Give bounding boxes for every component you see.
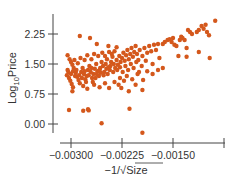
data-point [101,73,105,77]
data-point [144,59,148,63]
data-point [89,57,93,61]
data-point [92,52,96,56]
data-point [106,72,110,76]
data-point [87,73,91,77]
data-point [65,53,69,57]
data-point [78,81,82,85]
data-point [118,65,122,69]
data-point [174,44,178,48]
data-point [70,89,74,93]
data-point [147,44,151,48]
data-point [127,89,131,93]
data-point [92,83,96,87]
data-point [87,108,91,112]
data-point [121,70,125,74]
data-point [99,60,103,64]
data-point [93,76,97,80]
data-point [154,48,158,52]
data-point [73,74,77,78]
scatter-plot: 0.000.751.502.25 −0.00300−0.00225−0.0015… [0,0,237,186]
data-point [135,52,139,56]
data-point [97,85,101,89]
data-point [114,45,118,49]
data-point [84,80,88,84]
data-point [118,60,122,64]
x-tick-label: −0.00225 [100,149,144,161]
y-tick-label: 0.75 [25,88,46,100]
data-point [82,58,86,62]
data-point [78,56,82,60]
data-point [131,66,135,70]
data-point [149,49,153,53]
data-point [99,121,103,125]
y-tick-label: 0.00 [25,118,46,130]
data-point [103,81,107,85]
data-point [122,79,126,83]
data-point [203,23,207,27]
data-point [126,68,130,72]
data-point [108,64,112,68]
x-ticks: −0.00300−0.00225−0.00150 [49,138,224,161]
data-point [112,80,116,84]
data-point [197,50,201,54]
data-point [94,62,98,66]
data-point [141,78,145,82]
data-point [171,36,175,40]
x-axis-title: −1/√Size [104,164,147,176]
data-point [182,38,186,42]
data-point [124,53,128,57]
data-point [107,86,111,90]
data-point [72,58,76,62]
data-point [127,57,131,61]
data-point [119,86,123,90]
data-point [88,36,92,40]
data-point [104,67,108,71]
data-point [190,32,194,36]
data-point [133,83,137,87]
data-point [118,76,122,80]
data-point [140,54,144,58]
data-point [201,27,205,31]
data-point [112,49,116,53]
data-point [85,53,89,57]
data-point [150,72,154,76]
data-point [145,69,149,73]
data-point [127,107,131,111]
data-point [95,42,99,46]
data-point [78,34,82,38]
data-point [82,69,86,73]
data-point [176,54,180,58]
data-point [74,68,78,72]
points-layer [65,19,218,135]
data-point [81,109,85,113]
data-point [123,59,127,63]
data-point [184,55,188,59]
y-tick-label: 1.50 [25,58,46,70]
data-point [103,54,107,58]
data-point [80,76,84,80]
data-point [81,84,85,88]
data-point [125,74,129,78]
data-point [142,46,146,50]
data-point [135,72,139,76]
data-point [125,48,129,52]
data-point [129,46,133,50]
data-point [95,72,99,76]
data-point [157,56,161,60]
data-point [114,58,118,62]
data-point [197,28,201,32]
data-point [65,68,69,72]
data-point [89,66,93,70]
data-point [152,43,156,47]
y-tick-label: 2.25 [25,28,46,40]
data-point [129,62,133,66]
data-point [134,60,138,64]
data-point [184,46,188,50]
data-point [111,70,115,74]
data-point [96,54,100,58]
data-point [140,88,144,92]
data-point [156,42,160,46]
data-point [138,48,142,52]
data-point [150,62,154,66]
data-point [156,68,160,72]
